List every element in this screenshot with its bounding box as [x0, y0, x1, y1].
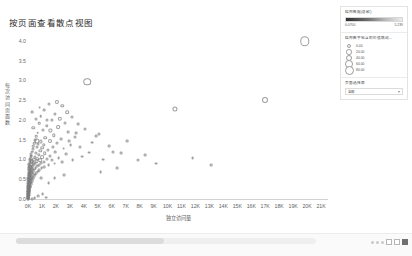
horizontal-scrollbar[interactable]: [16, 238, 316, 244]
scatter-point[interactable]: [67, 131, 70, 134]
scatter-point[interactable]: [60, 137, 63, 140]
x-tick-label: 16K: [247, 204, 256, 209]
scatter-point[interactable]: [155, 162, 158, 165]
scatter-point[interactable]: [34, 138, 39, 143]
scatter-point[interactable]: [191, 157, 194, 160]
scatter-point[interactable]: [70, 115, 73, 118]
box-filled-icon[interactable]: [402, 239, 408, 245]
scatter-point[interactable]: [38, 106, 41, 109]
scatter-point[interactable]: [71, 159, 74, 162]
x-tick-label: 7K: [122, 204, 128, 209]
scatter-point[interactable]: [63, 174, 66, 177]
color-legend-section: 结构数据(总和) 0.0700 5.239: [341, 7, 407, 33]
scatter-point[interactable]: [35, 146, 38, 149]
dot-icon[interactable]: [381, 241, 384, 244]
size-legend-section: 结构数字包含的价值跳动... 0.0020.0040.0060.0080.00: [341, 33, 407, 78]
color-gradient-bar: [345, 17, 403, 22]
scatter-point[interactable]: [73, 135, 76, 138]
x-tick-label: 9K: [150, 204, 156, 209]
scatter-point[interactable]: [41, 128, 44, 131]
scatter-point[interactable]: [144, 154, 147, 157]
chevron-down-icon: [398, 91, 400, 93]
scatter-point[interactable]: [44, 136, 48, 140]
scatter-point[interactable]: [31, 111, 34, 114]
scatter-point[interactable]: [43, 160, 46, 163]
scatter-point[interactable]: [46, 119, 49, 122]
page-title: 按页面查看散点视图: [9, 16, 94, 28]
scatter-plot-area[interactable]: 0.00.51.01.52.02.53.03.54.0 0K1K2K3K4K5K…: [28, 32, 328, 200]
scatter-point[interactable]: [88, 151, 91, 154]
scatter-point[interactable]: [75, 131, 78, 134]
scatter-point[interactable]: [79, 146, 82, 149]
scatter-point[interactable]: [262, 97, 268, 103]
scatter-point[interactable]: [137, 159, 140, 162]
x-tick-label: 3K: [67, 204, 73, 209]
bottom-toolbar: [0, 233, 412, 256]
scatter-point[interactable]: [99, 171, 102, 174]
y-axis-title: 每次访问页面数: [2, 82, 12, 125]
scatter-point[interactable]: [47, 164, 50, 167]
color-legend-title: 结构数据(总和): [345, 10, 403, 15]
scatter-point[interactable]: [40, 177, 43, 180]
scatter-point[interactable]: [37, 195, 40, 198]
scrollbar-thumb[interactable]: [16, 238, 164, 244]
scatter-point[interactable]: [53, 177, 56, 180]
scatter-point[interactable]: [84, 78, 92, 86]
dot-icon[interactable]: [371, 241, 374, 244]
scatter-point[interactable]: [83, 127, 86, 130]
scatter-point[interactable]: [43, 165, 46, 168]
x-tick-label: 4K: [81, 204, 87, 209]
scatter-point[interactable]: [112, 150, 115, 153]
scatter-point[interactable]: [68, 140, 71, 143]
page-selector-title: 页面选择器: [345, 81, 403, 86]
box-icon[interactable]: [394, 239, 400, 245]
scatter-point[interactable]: [49, 154, 52, 157]
scatter-point[interactable]: [300, 36, 310, 46]
scatter-point[interactable]: [48, 139, 52, 143]
scatter-point[interactable]: [56, 125, 60, 129]
scatter-point[interactable]: [57, 157, 60, 160]
visualization-card: 按页面查看散点视图 0.00.51.01.52.02.53.03.54.0 0K…: [0, 0, 336, 232]
scatter-point[interactable]: [120, 152, 123, 155]
dot-icon[interactable]: [376, 241, 379, 244]
scatter-point[interactable]: [81, 155, 84, 158]
scatter-point[interactable]: [91, 141, 94, 144]
scatter-point[interactable]: [65, 153, 68, 156]
scatter-point[interactable]: [45, 196, 48, 199]
scatter-point[interactable]: [47, 182, 50, 185]
scatter-point[interactable]: [126, 140, 129, 143]
scatter-point[interactable]: [209, 164, 212, 167]
scatter-point[interactable]: [61, 161, 64, 164]
x-tick-label: 14K: [219, 204, 228, 209]
scatter-point[interactable]: [65, 110, 69, 114]
scatter-point[interactable]: [53, 162, 56, 165]
scatter-point[interactable]: [39, 115, 42, 118]
scatter-point[interactable]: [33, 197, 36, 200]
scatter-point[interactable]: [38, 122, 41, 125]
size-legend-circle: [345, 66, 353, 75]
scatter-point[interactable]: [27, 198, 30, 201]
scatter-point[interactable]: [108, 145, 111, 148]
scatter-point[interactable]: [62, 147, 65, 150]
scatter-point[interactable]: [46, 158, 49, 161]
scatter-point[interactable]: [35, 135, 38, 138]
scatter-point[interactable]: [95, 135, 98, 138]
page-selector-dropdown[interactable]: 全部: [345, 88, 403, 95]
scatter-point[interactable]: [41, 193, 44, 196]
scatter-point[interactable]: [77, 123, 80, 126]
box-icon[interactable]: [386, 239, 392, 245]
scatter-point[interactable]: [34, 117, 37, 120]
scatter-point[interactable]: [69, 144, 72, 147]
toolbar-icon-group[interactable]: [371, 239, 408, 245]
scatter-point[interactable]: [47, 103, 50, 106]
scatter-point[interactable]: [63, 121, 66, 124]
x-tick-label: 17K: [261, 204, 270, 209]
scatter-point[interactable]: [55, 142, 58, 145]
scatter-point[interactable]: [54, 151, 57, 154]
scatter-point[interactable]: [116, 167, 119, 170]
scatter-point[interactable]: [43, 152, 47, 156]
color-legend-range: 0.0700 5.239: [345, 23, 403, 28]
scatter-point[interactable]: [43, 108, 46, 111]
page-selector-section: 页面选择器 全部: [341, 78, 407, 99]
scatter-point[interactable]: [102, 158, 105, 161]
